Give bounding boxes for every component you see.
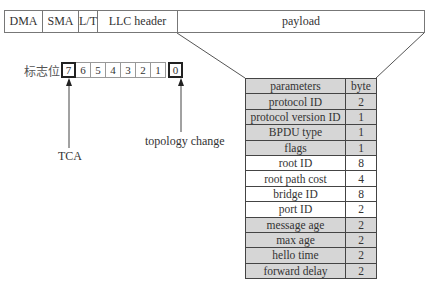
table-header-row: parameters byte <box>246 79 377 94</box>
bit-0: 0 <box>168 62 183 78</box>
param-name: message age <box>246 217 346 232</box>
field-llc-header: LLC header <box>98 11 178 32</box>
field-payload: payload <box>178 11 424 32</box>
table-row: BPDU type 1 <box>246 125 377 140</box>
field-length-type: L/T <box>79 11 98 32</box>
payload-left-expansion-line <box>177 33 245 78</box>
payload-right-expansion-line <box>376 33 424 78</box>
param-bytes: 1 <box>346 125 377 140</box>
table-row: bridge ID 8 <box>246 186 377 201</box>
bpdu-parameter-table: parameters byte protocol ID 2 protocol v… <box>245 78 377 279</box>
param-name: root ID <box>246 155 346 170</box>
param-name: bridge ID <box>246 186 346 201</box>
table-row: root ID 8 <box>246 155 377 170</box>
table-row: forward delay 2 <box>246 263 377 278</box>
topology-change-label: topology change <box>145 134 225 149</box>
param-bytes: 2 <box>346 248 377 263</box>
bit-1: 1 <box>151 62 166 78</box>
table-row: message age 2 <box>246 217 377 232</box>
field-dma: DMA <box>5 11 43 32</box>
table-row: protocol ID 2 <box>246 94 377 109</box>
param-name: protocol ID <box>246 94 346 109</box>
table-row: flags 1 <box>246 140 377 155</box>
ethernet-frame: DMA SMA L/T LLC header payload <box>4 10 425 33</box>
table-row: max age 2 <box>246 232 377 247</box>
param-bytes: 8 <box>346 186 377 201</box>
param-name: flags <box>246 140 346 155</box>
bit-7: 7 <box>61 62 76 78</box>
param-name: max age <box>246 232 346 247</box>
flag-bits: 7 6 5 4 3 2 1 0 <box>61 62 183 78</box>
param-name: port ID <box>246 202 346 217</box>
table-row: protocol version ID 1 <box>246 109 377 124</box>
topology-change-arrow-head <box>178 78 184 86</box>
param-bytes: 2 <box>346 217 377 232</box>
param-bytes: 2 <box>346 202 377 217</box>
param-bytes: 1 <box>346 109 377 124</box>
table-row: root path cost 4 <box>246 171 377 186</box>
param-bytes: 2 <box>346 263 377 278</box>
tca-label: TCA <box>58 149 82 164</box>
flags-label: 标志位 <box>24 62 60 79</box>
param-bytes: 2 <box>346 94 377 109</box>
param-name: hello time <box>246 248 346 263</box>
param-bytes: 8 <box>346 155 377 170</box>
bit-3: 3 <box>121 62 136 78</box>
table-row: hello time 2 <box>246 248 377 263</box>
param-name: protocol version ID <box>246 109 346 124</box>
table-row: port ID 2 <box>246 202 377 217</box>
param-name: root path cost <box>246 171 346 186</box>
tca-arrow-head <box>66 78 72 86</box>
bit-6: 6 <box>76 62 91 78</box>
bit-4: 4 <box>106 62 121 78</box>
param-bytes: 1 <box>346 140 377 155</box>
field-sma: SMA <box>43 11 79 32</box>
bit-2: 2 <box>136 62 151 78</box>
bit-5: 5 <box>91 62 106 78</box>
header-parameters: parameters <box>246 79 346 94</box>
param-bytes: 2 <box>346 232 377 247</box>
param-bytes: 4 <box>346 171 377 186</box>
param-name: forward delay <box>246 263 346 278</box>
param-name: BPDU type <box>246 125 346 140</box>
header-byte: byte <box>346 79 377 94</box>
